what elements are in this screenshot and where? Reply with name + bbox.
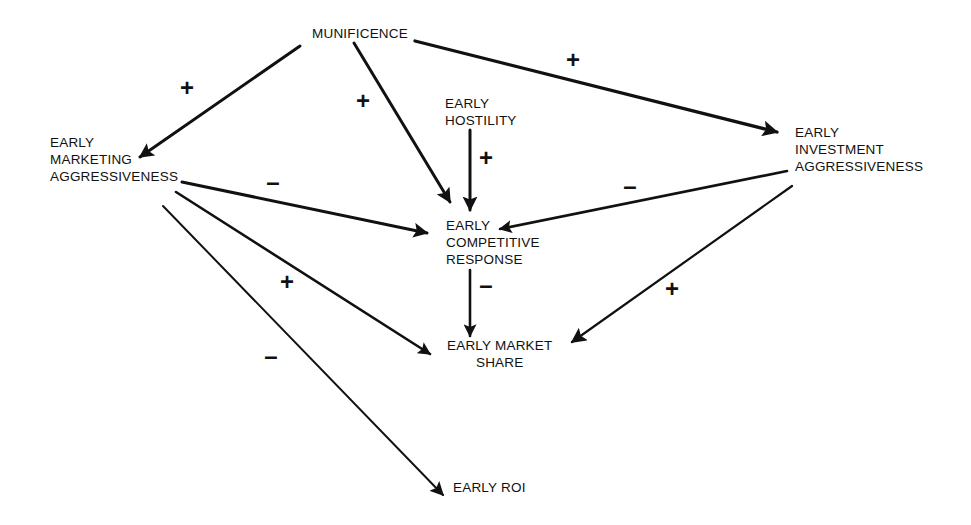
- node-label: RESPONSE: [446, 251, 540, 268]
- edge-sign-plus: +: [280, 270, 294, 294]
- node-label: EARLY ROI: [453, 479, 526, 496]
- node-label: MARKETING: [50, 151, 178, 168]
- edge-sign-plus: +: [479, 146, 493, 170]
- edge-sign-minus: –: [479, 273, 492, 297]
- edge-marketing-to-market-share: [176, 192, 430, 354]
- node-early-roi: EARLY ROI: [453, 479, 526, 496]
- node-label: COMPETITIVE: [446, 234, 540, 251]
- node-early-marketing-aggressiveness: EARLY MARKETING AGGRESSIVENESS: [50, 134, 178, 185]
- node-label: AGGRESSIVENESS: [795, 158, 923, 175]
- edge-sign-minus: –: [264, 344, 277, 368]
- node-label: MUNIFICENCE: [312, 25, 408, 42]
- edge-sign-minus: –: [623, 174, 636, 198]
- edge-sign-plus: +: [356, 89, 370, 113]
- edge-sign-plus: +: [180, 76, 194, 100]
- node-label: AGGRESSIVENESS: [50, 168, 178, 185]
- node-early-market-share: EARLY MARKET SHARE: [447, 337, 552, 371]
- node-early-hostility: EARLY HOSTILITY: [445, 95, 517, 129]
- edge-marketing-to-roi: [163, 206, 443, 495]
- node-label: HOSTILITY: [445, 112, 517, 129]
- node-label: SHARE: [447, 354, 552, 371]
- node-label: EARLY MARKET: [447, 337, 552, 354]
- edge-munificence-to-competitive-response: [354, 43, 450, 202]
- edge-marketing-to-competitive-response: [182, 182, 427, 233]
- node-early-investment-aggressiveness: EARLY INVESTMENT AGGRESSIVENESS: [795, 124, 923, 175]
- node-label: EARLY: [795, 124, 923, 141]
- node-label: EARLY: [445, 95, 517, 112]
- edge-sign-minus: –: [266, 170, 279, 194]
- node-label: EARLY: [446, 217, 540, 234]
- edge-sign-plus: +: [566, 48, 580, 72]
- edge-sign-plus: +: [665, 277, 679, 301]
- node-munificence: MUNIFICENCE: [312, 25, 408, 42]
- node-early-competitive-response: EARLY COMPETITIVE RESPONSE: [446, 217, 540, 268]
- node-label: INVESTMENT: [795, 141, 923, 158]
- edge-investment-to-market-share: [572, 186, 792, 342]
- node-label: EARLY: [50, 134, 178, 151]
